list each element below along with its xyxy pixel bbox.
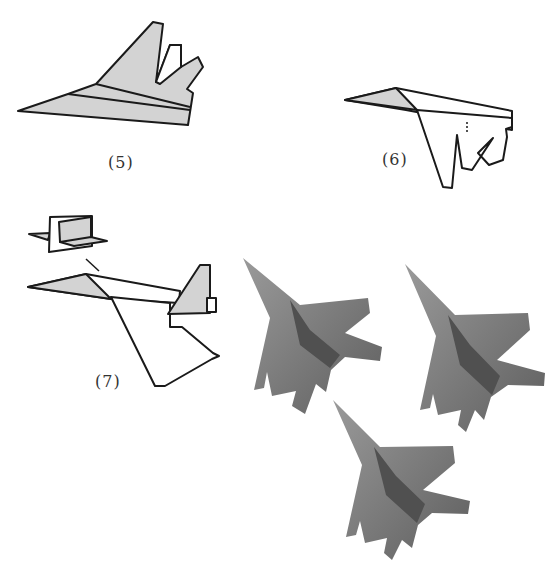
jet-1 xyxy=(243,258,382,414)
jet-3 xyxy=(333,400,470,560)
jets-photo xyxy=(0,0,560,563)
jet-2 xyxy=(405,264,545,432)
